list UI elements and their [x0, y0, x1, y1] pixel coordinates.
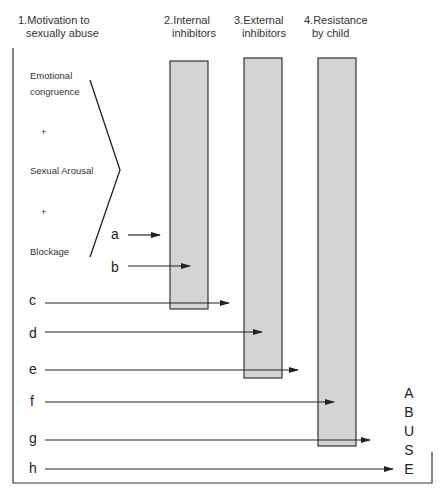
component-emotional-congruence: Emotional congruence [30, 68, 80, 100]
arrow-label-g: g [29, 430, 37, 446]
component-sexual-arousal: Sexual Arousal [30, 165, 93, 176]
abuse-letter-a: A [402, 384, 416, 403]
arrow-label-f: f [30, 393, 34, 409]
frame-outline [13, 48, 432, 483]
abuse-letter-s: S [402, 441, 416, 460]
arrow-label-b: b [111, 259, 119, 275]
abuse-letter-b: B [402, 403, 416, 422]
emotional-line2: congruence [30, 86, 80, 97]
abuse-letter-u: U [402, 422, 416, 441]
component-blockage: Blockage [30, 246, 69, 257]
abuse-letter-e: E [402, 460, 416, 479]
barrier-internal-inhibitors [170, 61, 208, 309]
abuse-outcome: A B U S E [402, 384, 416, 479]
arrow-label-d: d [29, 325, 37, 341]
arrow-label-a: a [111, 226, 119, 242]
plus-sign-1: + [41, 127, 46, 137]
barrier-external-inhibitors [244, 58, 282, 378]
arrow-label-c: c [29, 292, 36, 308]
barrier-resistance-by-child [318, 58, 356, 446]
emotional-line1: Emotional [30, 70, 72, 81]
arrow-label-e: e [29, 361, 37, 377]
arrow-label-h: h [29, 460, 37, 476]
plus-sign-2: + [41, 207, 46, 217]
